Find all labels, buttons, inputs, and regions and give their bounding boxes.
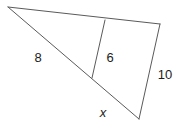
triangle-outline [8, 7, 160, 119]
side-label-6: 6 [106, 51, 113, 64]
left-edge-line [8, 7, 139, 119]
side-label-10: 10 [158, 68, 172, 81]
geometry-figure: 8 6 10 x [0, 0, 182, 129]
top-edge-line [8, 7, 160, 24]
transversal-edge-line [92, 20, 105, 78]
geometry-figure-svg [0, 0, 182, 129]
side-label-x: x [100, 106, 107, 119]
side-label-8: 8 [34, 51, 41, 64]
